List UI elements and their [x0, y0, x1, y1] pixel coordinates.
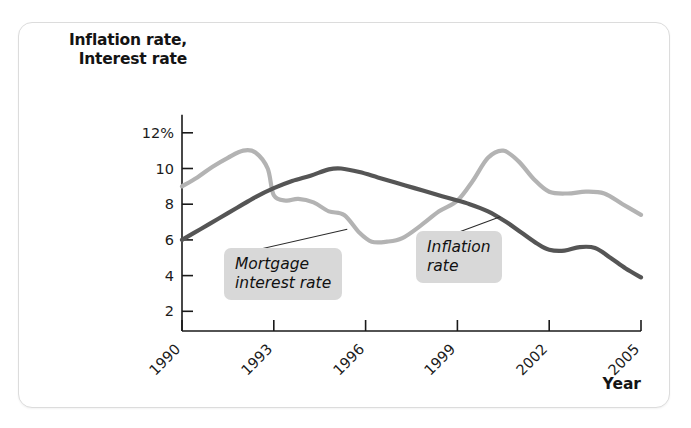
x-axis-title: Year: [603, 375, 641, 393]
y-tick-label: 2: [114, 303, 174, 319]
y-tick-label: 12%: [114, 125, 174, 141]
y-tick-label: 4: [114, 268, 174, 284]
y-tick-label: 6: [114, 232, 174, 248]
y-tick-label: 8: [114, 196, 174, 212]
annotation-label: Inflation rate: [416, 231, 502, 283]
annotation-label: Mortgage interest rate: [224, 248, 342, 300]
y-tick-label: 10: [114, 161, 174, 177]
chart-card: Inflation rate, Interest rate 12%108642 …: [18, 22, 670, 408]
